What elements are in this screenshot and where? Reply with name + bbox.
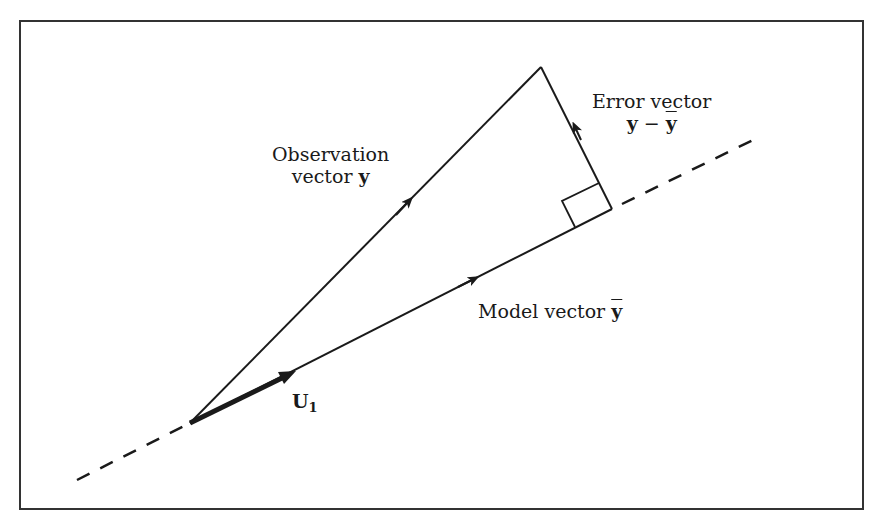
symbol-u: U xyxy=(292,390,309,412)
model-label-prefix: Model vector xyxy=(478,300,611,322)
observation-label-line2: vector y xyxy=(272,165,389,187)
observation-vector xyxy=(190,67,541,423)
observation-label-line1: Observation xyxy=(272,143,389,165)
symbol-y-bar: y xyxy=(611,300,622,322)
vector-geometry xyxy=(0,0,886,527)
subspace-dashed-line-lower xyxy=(77,423,190,480)
subspace-dashed-line-upper xyxy=(622,138,757,204)
model-arrow-icon xyxy=(458,279,474,287)
minus-sign: − xyxy=(638,112,666,134)
right-angle-marker xyxy=(562,183,599,227)
error-vector-label: Error vector y − y xyxy=(592,90,711,134)
error-label-line1: Error vector xyxy=(592,90,711,112)
symbol-y: y xyxy=(359,165,370,187)
unit-vector-u1 xyxy=(190,378,282,423)
unit-vector-label: U1 xyxy=(292,390,318,419)
model-vector-label: Model vector y xyxy=(478,300,622,322)
observation-arrow-icon xyxy=(396,201,409,215)
symbol-y-bar: y xyxy=(666,112,677,134)
subscript-1: 1 xyxy=(309,400,318,415)
error-label-line2: y − y xyxy=(592,112,711,134)
symbol-y: y xyxy=(627,112,638,134)
observation-vector-label: Observation vector y xyxy=(272,143,389,187)
observation-label-prefix: vector xyxy=(292,165,359,187)
error-vector xyxy=(541,67,612,209)
